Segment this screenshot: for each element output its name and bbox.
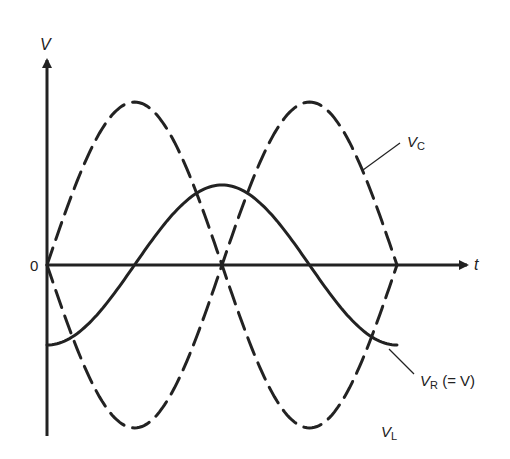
origin-label: 0	[30, 257, 38, 274]
vr-leader	[389, 349, 414, 374]
vr-label-main: V	[420, 372, 430, 389]
vc-label-sub: C	[417, 140, 425, 152]
vc-label-main: V	[407, 133, 417, 150]
vr-label: VR (= V)	[420, 372, 475, 391]
v-axis-label: V	[40, 36, 51, 54]
t-axis-label: t	[474, 256, 478, 274]
vr-label-suffix: (= V)	[442, 372, 475, 389]
vr-label-sub: R	[430, 379, 438, 391]
vc-label: VC	[407, 133, 425, 152]
vl-label-main: V	[381, 423, 391, 440]
vl-label: VL	[381, 423, 397, 442]
vc-leader	[363, 143, 400, 170]
vl-label-sub: L	[391, 430, 397, 442]
